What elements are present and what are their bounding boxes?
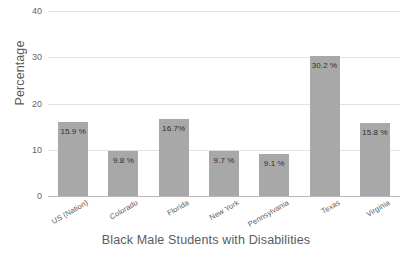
x-tick-label: Colorado	[108, 198, 140, 221]
x-tick-label: Pennsylvania	[247, 198, 291, 229]
x-axis-tick-labels: US (Nation)ColoradoFloridaNew YorkPennsy…	[48, 198, 400, 238]
x-axis-title: Black Male Students with Disabilities	[0, 233, 412, 247]
y-tick-label: 10	[32, 145, 42, 155]
bar-value-label: 9.7 %	[214, 156, 235, 165]
x-tick-label: New York	[208, 198, 241, 222]
x-tick-label: Florida	[165, 198, 190, 218]
bar-group[interactable]: 9.8 %	[108, 11, 138, 196]
y-tick-label: 40	[32, 6, 42, 16]
y-tick-label: 20	[32, 99, 42, 109]
bar-value-label: 16.7%	[162, 124, 185, 133]
y-tick-label: 0	[37, 191, 42, 201]
plot-area: 010203040 15.9 %9.8 %16.7%9.7 %9.1 %30.2…	[48, 11, 400, 196]
y-axis-title: Percentage	[13, 13, 27, 133]
y-tick-label: 30	[32, 52, 42, 62]
bar-group[interactable]: 15.8 %	[360, 11, 390, 196]
bar-group[interactable]: 30.2 %	[310, 11, 340, 196]
x-tick-label: Texas	[319, 198, 341, 216]
bar-value-label: 15.8 %	[362, 128, 388, 137]
x-tick-label: US (Nation)	[50, 198, 89, 226]
bar-value-label: 9.8 %	[113, 156, 134, 165]
x-axis-line: 0	[48, 196, 400, 197]
bar-value-label: 9.1 %	[264, 159, 285, 168]
bar-chart: Percentage 010203040 15.9 %9.8 %16.7%9.7…	[0, 0, 412, 257]
bar-group[interactable]: 9.1 %	[259, 11, 289, 196]
bar-group[interactable]: 15.9 %	[58, 11, 88, 196]
bar-group[interactable]: 16.7%	[159, 11, 189, 196]
bar[interactable]	[310, 56, 340, 196]
x-tick-label: Virginia	[365, 198, 392, 219]
bar-value-label: 15.9 %	[60, 127, 86, 136]
bar-value-label: 30.2 %	[312, 61, 338, 70]
bar-group[interactable]: 9.7 %	[209, 11, 239, 196]
bars-group: 15.9 %9.8 %16.7%9.7 %9.1 %30.2 %15.8 %	[48, 11, 400, 196]
